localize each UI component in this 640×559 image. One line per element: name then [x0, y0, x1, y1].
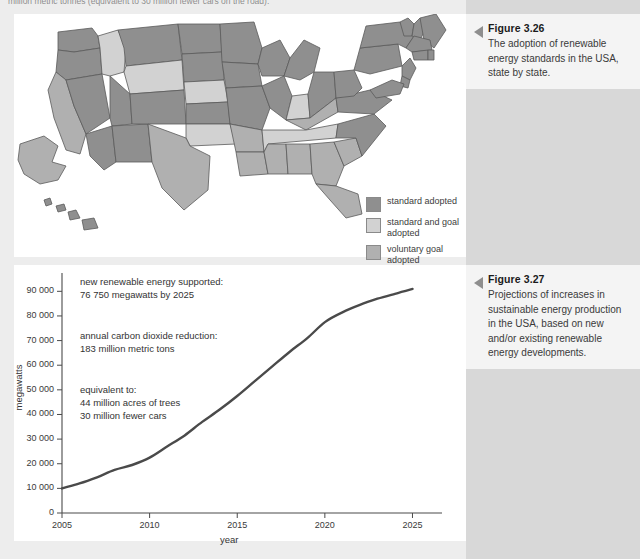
figure-326-number: Figure 3.26: [488, 22, 630, 34]
annotation-line: annual carbon dioxide reduction:: [80, 329, 217, 342]
page-root: million metric tonnes (equivalent to 30 …: [0, 0, 640, 559]
legend-swatch-standard-and-goal: [366, 218, 381, 233]
x-tick-label: 2015: [217, 520, 257, 530]
map-state-wy: [124, 60, 184, 94]
figure-326-caption: Figure 3.26 The adoption of renewable en…: [466, 14, 640, 89]
figure-327-text: Projections of increases in sustainable …: [488, 288, 630, 361]
map-state-pa: [354, 44, 402, 74]
figure-327-number: Figure 3.27: [488, 273, 630, 285]
map-state-ri: [428, 50, 434, 60]
map-state-mo: [226, 86, 270, 130]
y-tick-label: 80 000: [0, 310, 54, 320]
annotation-line: new renewable energy supported:: [80, 275, 223, 288]
caption-triangle-icon: [474, 26, 483, 38]
legend-item: standard adopted: [366, 196, 466, 212]
legend-label-voluntary-goal: voluntary goal adopted: [387, 244, 466, 266]
caption-triangle-icon: [474, 277, 483, 289]
y-tick-label: 40 000: [0, 408, 54, 418]
map-state-ks: [186, 102, 230, 124]
legend-item: voluntary goal adopted: [366, 244, 466, 266]
y-tick-label: 0: [0, 507, 54, 517]
map-state-hi: [44, 198, 98, 230]
map-state-md: [370, 80, 404, 98]
map-state-ak: [18, 136, 66, 184]
annotation-line: 44 million acres of trees: [80, 396, 180, 409]
x-axis-title: year: [220, 534, 238, 545]
legend-swatch-standard: [366, 197, 381, 212]
map-panel: standard adopted standard and goal adopt…: [14, 14, 466, 257]
map-state-nd: [178, 24, 222, 54]
x-tick-label: 2010: [130, 520, 170, 530]
map-state-la: [236, 152, 268, 176]
map-state-mn: [220, 22, 262, 64]
legend-swatch-voluntary-goal: [366, 245, 381, 260]
map-state-wa: [58, 28, 100, 52]
legend-label-standard-and-goal: standard and goal adopted: [387, 217, 466, 239]
map-state-sd: [182, 52, 224, 82]
figure-327-caption: Figure 3.27 Projections of increases in …: [466, 265, 640, 369]
x-tick-label: 2005: [42, 520, 82, 530]
annotation-line: 30 million fewer cars: [80, 409, 180, 422]
y-tick-label: 10 000: [0, 482, 54, 492]
annotation-line: equivalent to:: [80, 383, 180, 396]
legend-label-standard: standard adopted: [387, 196, 457, 207]
map-legend: standard adopted standard and goal adopt…: [366, 196, 466, 271]
y-tick-label: 50 000: [0, 384, 54, 394]
annotation-line: 183 million metric tons: [80, 342, 217, 355]
y-tick-label: 30 000: [0, 433, 54, 443]
y-tick-label: 70 000: [0, 335, 54, 345]
running-header: million metric tonnes (equivalent to 30 …: [8, 0, 428, 8]
y-tick-label: 20 000: [0, 458, 54, 468]
map-state-ct: [412, 50, 428, 60]
y-tick-label: 90 000: [0, 285, 54, 295]
map-state-co: [130, 90, 186, 124]
map-state-nm: [112, 124, 152, 162]
map-state-ok: [186, 124, 236, 146]
chart-annotation-energy: new renewable energy supported:76 750 me…: [80, 275, 223, 301]
chart-annotation-co2: annual carbon dioxide reduction:183 mill…: [80, 329, 217, 355]
annotation-line: 76 750 megawatts by 2025: [80, 288, 223, 301]
y-tick-label: 60 000: [0, 359, 54, 369]
map-state-mt: [118, 24, 182, 66]
map-state-ne: [184, 80, 228, 104]
map-state-fl: [316, 184, 362, 218]
map-state-ia: [222, 62, 262, 88]
x-tick-label: 2025: [392, 520, 432, 530]
map-state-az: [86, 126, 116, 170]
x-tick-label: 2020: [305, 520, 345, 530]
chart-annotation-equivalent: equivalent to:44 million acres of trees3…: [80, 383, 180, 422]
map-state-wi: [258, 40, 290, 76]
legend-item: standard and goal adopted: [366, 217, 466, 239]
map-state-al: [286, 144, 312, 174]
figure-326-text: The adoption of renewable energy standar…: [488, 37, 630, 81]
map-state-ms: [264, 144, 288, 174]
